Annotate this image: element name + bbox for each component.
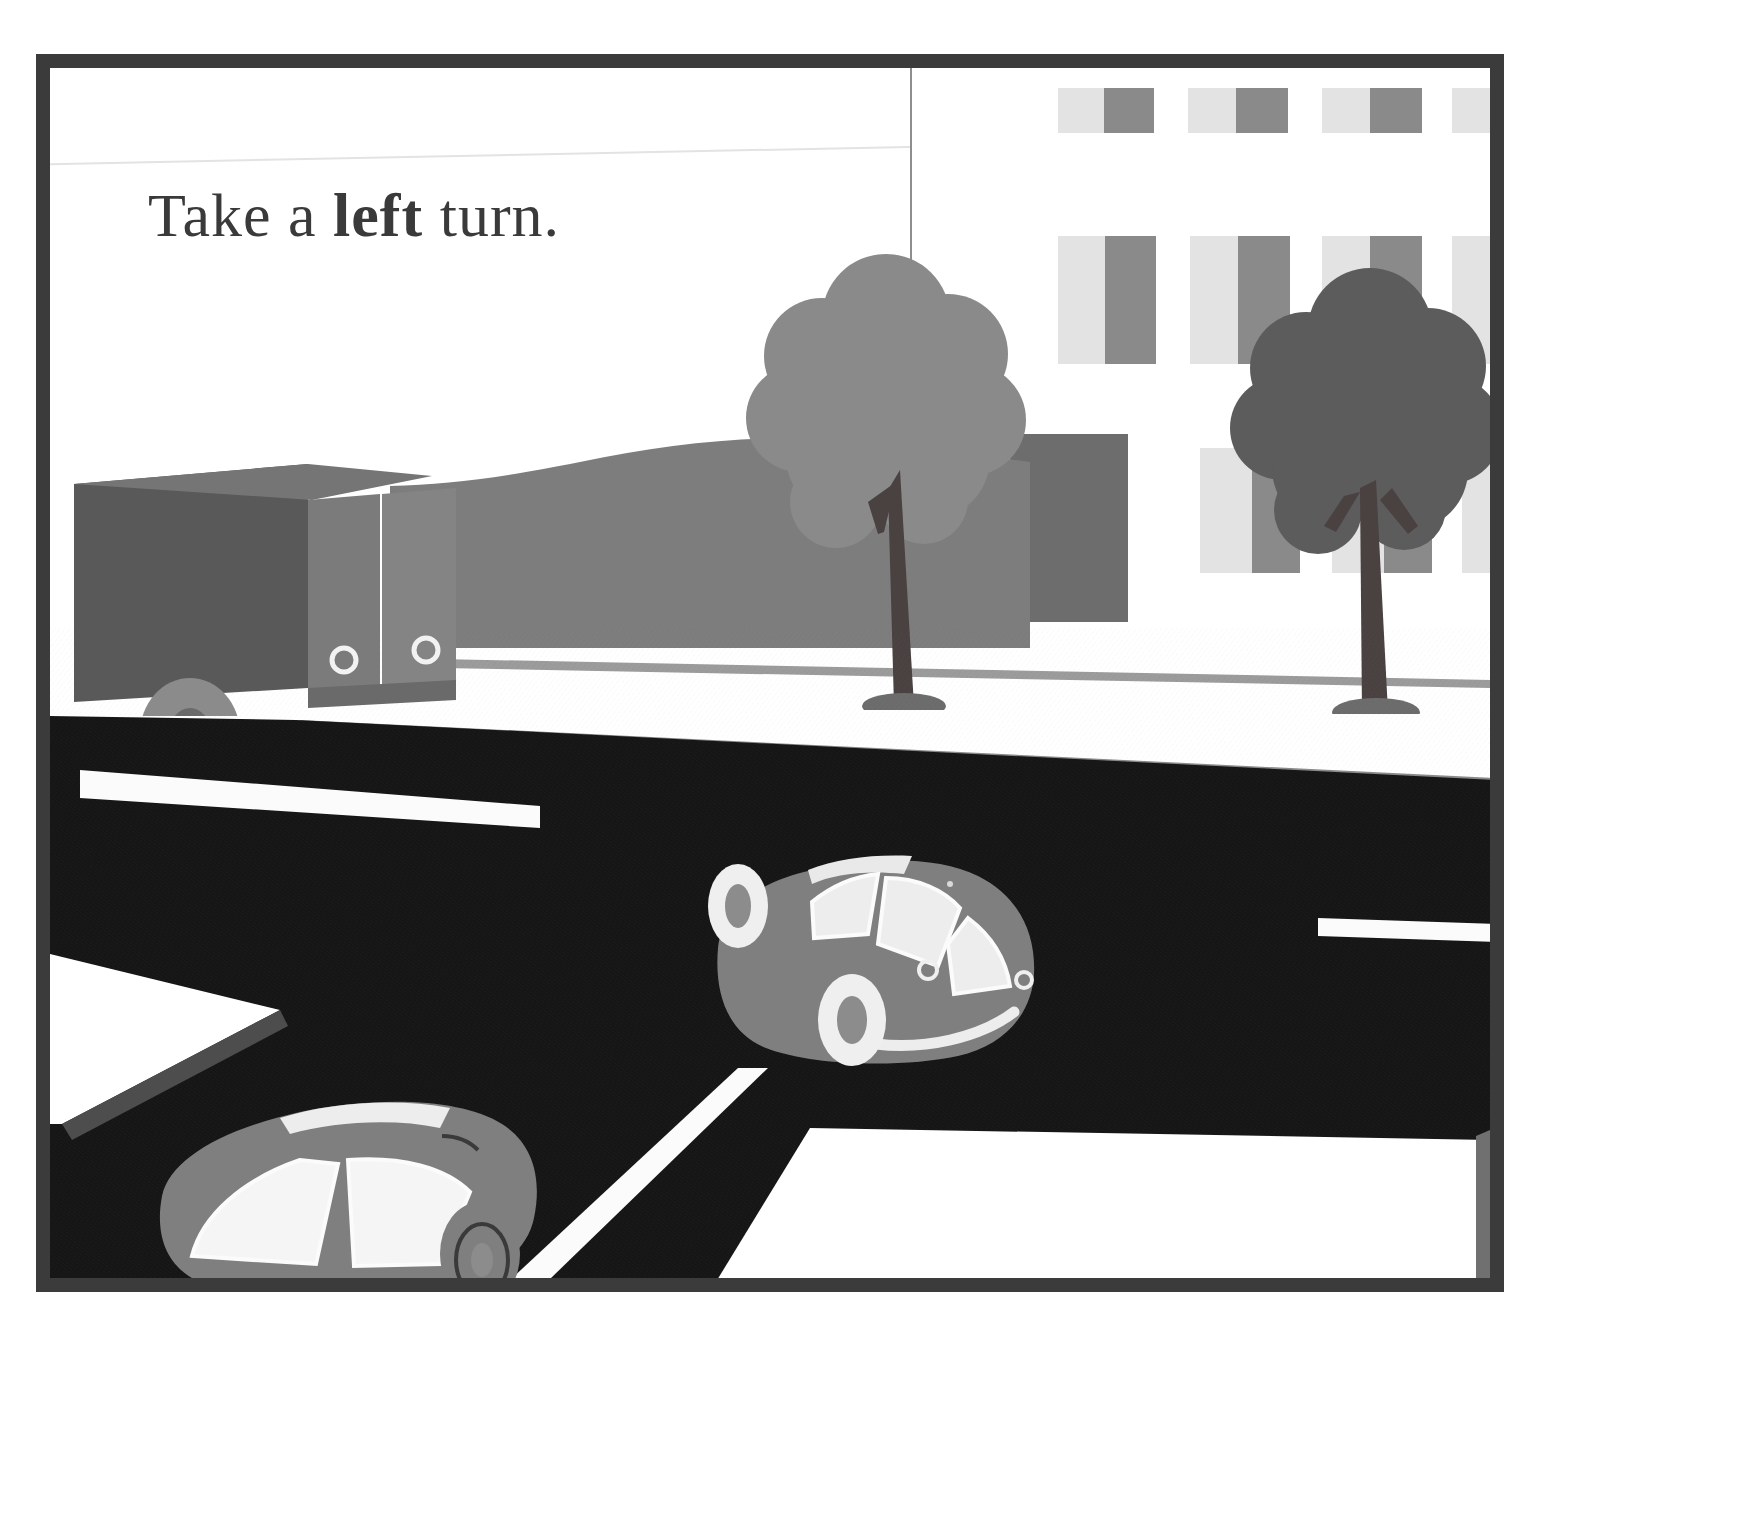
window-pane-dark: [1105, 236, 1156, 364]
crosswalk-lower-right-edge: [1476, 1128, 1490, 1278]
car-center-shape: [662, 798, 1062, 1088]
building-window: [1322, 88, 1422, 133]
caption-after: turn.: [423, 181, 560, 249]
illustration-page: Take a left turn.: [0, 0, 1758, 1521]
window-pane-light: [1322, 88, 1370, 133]
window-pane-light: [1188, 88, 1236, 133]
car-lower-left-shape: [110, 1068, 540, 1278]
street-scene: Take a left turn.: [50, 68, 1490, 1278]
caption-text: Take a left turn.: [148, 180, 560, 251]
crosswalk-lower-right: [700, 1128, 1490, 1278]
building-window: [1058, 236, 1156, 364]
window-pane-light: [1058, 236, 1105, 364]
window-pane-light: [1058, 88, 1104, 133]
truck-shape: [60, 416, 460, 716]
truck-front-panel-b: [382, 488, 456, 698]
window-pane-dark: [1370, 88, 1422, 133]
car-lower-left-hub: [471, 1243, 493, 1277]
building-window: [1452, 88, 1490, 133]
caption-emphasis: left: [333, 181, 423, 249]
window-pane-light: [1452, 88, 1490, 133]
building-window: [1058, 88, 1154, 133]
car-center-rear-hub: [837, 996, 867, 1044]
tree-right-canopy: [1230, 268, 1490, 554]
illustration-frame: Take a left turn.: [36, 54, 1504, 1292]
window-pane-dark: [1104, 88, 1154, 133]
car-center-front-hub: [725, 884, 751, 928]
caption-before: Take a: [148, 181, 333, 249]
truck-cargo-side: [74, 464, 308, 702]
window-pane-dark: [1236, 88, 1288, 133]
car-center-roof-dot: [947, 881, 953, 887]
building-window: [1188, 88, 1288, 133]
